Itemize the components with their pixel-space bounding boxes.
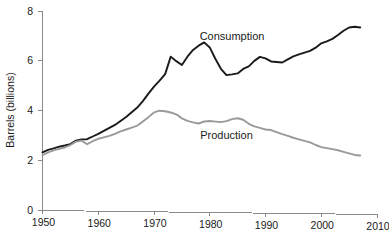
x-tick-label-1960: 1960 <box>88 217 112 229</box>
y-axis-title: Barrels (billions) <box>4 72 16 147</box>
y-tick-label-8: 8 <box>27 5 33 17</box>
x-tick-label-1950: 1950 <box>32 216 56 228</box>
series-label-production: Production <box>200 129 253 141</box>
x-tick-label-2000: 2000 <box>311 219 335 231</box>
y-axis-ticks <box>38 11 43 210</box>
y-tick-label-2: 2 <box>27 154 33 166</box>
y-tick-label-4: 4 <box>27 104 33 116</box>
x-tick-label-1980: 1980 <box>199 218 223 230</box>
series-label-consumption: Consumption <box>200 30 265 42</box>
x-axis-tick-labels: 1950196019701980199020002010 <box>32 216 389 232</box>
y-axis-tick-labels: 02468 <box>27 5 33 216</box>
y-tick-label-6: 6 <box>27 54 33 66</box>
oil-production-consumption-line-chart: 02468 1950196019701980199020002010 Barre… <box>0 0 389 244</box>
x-tick-label-1990: 1990 <box>255 219 279 231</box>
y-tick-label-0: 0 <box>27 204 33 216</box>
x-tick-label-2010: 2010 <box>366 220 389 232</box>
x-tick-label-1970: 1970 <box>143 217 167 229</box>
chart-container: 02468 1950196019701980199020002010 Barre… <box>0 0 389 244</box>
